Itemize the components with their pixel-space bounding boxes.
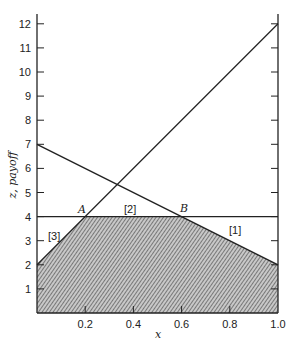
y-tick-labels: 1 2 3 4 5 6 7 8 9 10 11 12 (19, 18, 31, 295)
svg-text:1: 1 (25, 283, 31, 295)
y-axis-title: z, payoff (6, 149, 19, 199)
line-2-label: [2] (124, 203, 136, 215)
x-axis-title: x (155, 328, 162, 341)
svg-text:0.4: 0.4 (126, 318, 141, 330)
svg-text:2: 2 (25, 259, 31, 271)
svg-text:5: 5 (25, 187, 31, 199)
svg-text:0.6: 0.6 (174, 318, 189, 330)
svg-text:0.8: 0.8 (222, 318, 237, 330)
payoff-chart: 1 2 3 4 5 6 7 8 9 10 11 12 0.2 0.4 0.6 0… (0, 0, 295, 342)
svg-text:1.0: 1.0 (270, 318, 285, 330)
svg-text:9: 9 (25, 90, 31, 102)
y-ticks-right (271, 24, 278, 289)
y-ticks-left (37, 24, 44, 289)
svg-text:10: 10 (19, 66, 31, 78)
svg-text:4: 4 (25, 211, 31, 223)
svg-text:6: 6 (25, 162, 31, 174)
svg-text:7: 7 (25, 138, 31, 150)
svg-text:3: 3 (25, 235, 31, 247)
svg-text:12: 12 (19, 18, 31, 30)
svg-text:8: 8 (25, 114, 31, 126)
shaded-region (37, 217, 278, 313)
line-1-label: [1] (229, 224, 241, 236)
line-3-label: [3] (48, 230, 60, 242)
svg-text:11: 11 (20, 42, 31, 54)
x-tick-labels: 0.2 0.4 0.6 0.8 1.0 (78, 318, 286, 330)
svg-text:0.2: 0.2 (78, 318, 93, 330)
point-b-label: B (179, 202, 188, 215)
point-a-label: A (77, 203, 86, 216)
